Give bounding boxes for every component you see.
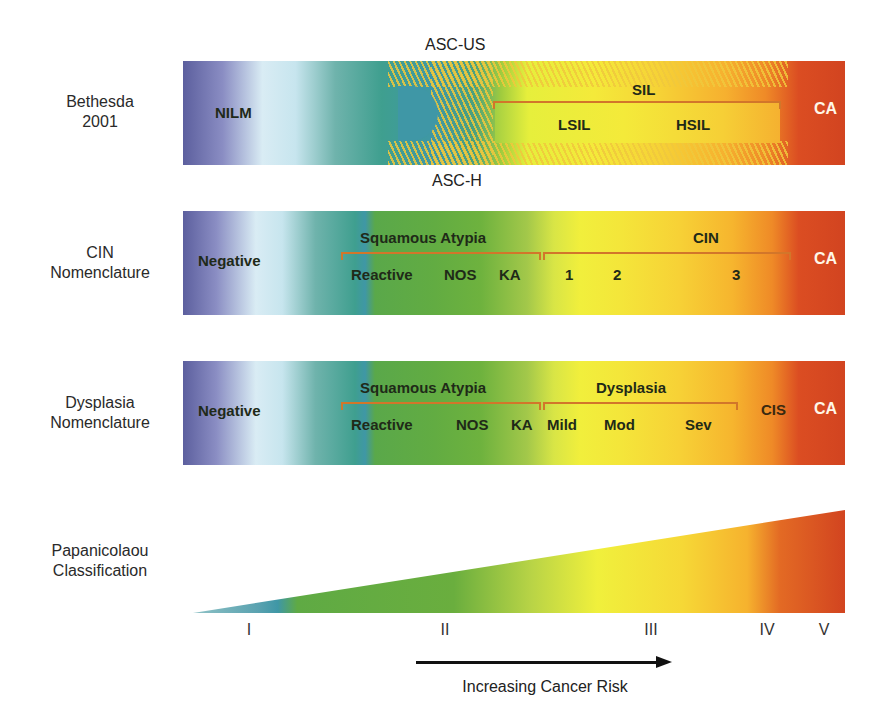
papanicolaou-risk-wedge <box>0 0 878 728</box>
pap-class-2-label: II <box>441 621 450 639</box>
risk-arrow-shaft <box>416 661 660 664</box>
pap-class-1-label: I <box>247 621 251 639</box>
arrow-right-icon <box>656 656 672 668</box>
pap-class-3-label: III <box>644 621 657 639</box>
pap-class-4-label: IV <box>759 621 774 639</box>
pap-class-5-label: V <box>819 621 830 639</box>
increasing-cancer-risk-label: Increasing Cancer Risk <box>415 678 675 696</box>
